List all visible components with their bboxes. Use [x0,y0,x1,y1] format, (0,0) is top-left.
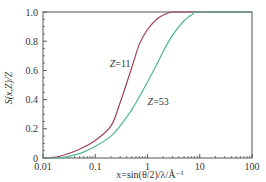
y-tick-label: 1.0 [26,7,39,18]
x-tick-label: 0.01 [34,161,52,172]
x-tick-label: 0.1 [89,161,102,172]
curve-z-11 [43,12,252,158]
x-axis-title: x=sin(θ/2)/λ/Å⁻¹ [116,169,183,181]
curve-z-53 [43,12,252,158]
y-tick-label: 0.8 [26,36,39,47]
y-axis-title: S(x,Z)/Z [3,71,15,104]
y-axis: 00.20.40.60.81.0 [26,7,48,164]
x-tick-label: 10 [195,161,205,172]
y-tick-label: 0.6 [26,65,39,76]
curve-annotation: Z=11 [110,58,131,69]
plot-frame [43,12,252,158]
x-tick-label: 100 [245,161,260,172]
annotations: Z=11Z=53 [110,58,169,107]
y-tick-label: 0.4 [26,94,39,105]
scattering-function-chart: 00.20.40.60.81.0 0.010.1110100 Z=11Z=53 … [0,0,266,182]
y-tick-label: 0.2 [26,123,39,134]
curves [43,12,252,158]
curve-annotation: Z=53 [148,96,169,107]
